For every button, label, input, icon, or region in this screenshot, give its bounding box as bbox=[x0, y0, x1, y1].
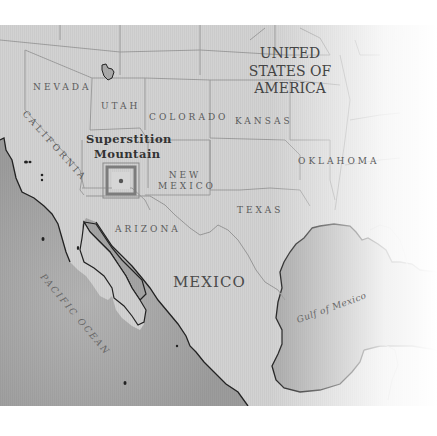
label-kansas: KANSAS bbox=[235, 116, 293, 126]
superstition-mountain-marker[interactable] bbox=[103, 163, 139, 198]
label-usa-1: UNITED bbox=[260, 45, 320, 61]
label-new-mexico-2: MEXICO bbox=[158, 181, 216, 191]
poi-label-line1[interactable]: Superstition bbox=[86, 132, 172, 146]
label-new-mexico-1: NEW bbox=[169, 170, 202, 180]
map-svg[interactable]: UNITED STATES OF AMERICA NEVADA UTAH COL… bbox=[0, 25, 437, 406]
label-nevada: NEVADA bbox=[33, 82, 92, 92]
label-oklahoma: OKLAHOMA bbox=[298, 156, 380, 166]
map-container: UNITED STATES OF AMERICA NEVADA UTAH COL… bbox=[0, 25, 437, 406]
label-mexico: MEXICO bbox=[173, 273, 246, 291]
label-arizona: ARIZONA bbox=[114, 224, 181, 234]
label-usa-2: STATES OF bbox=[249, 63, 332, 79]
label-colorado: COLORADO bbox=[149, 112, 229, 122]
label-texas: TEXAS bbox=[237, 205, 283, 215]
label-utah: UTAH bbox=[101, 101, 140, 111]
poi-label-line2[interactable]: Mountain bbox=[94, 147, 161, 161]
label-usa-3: AMERICA bbox=[253, 80, 326, 96]
